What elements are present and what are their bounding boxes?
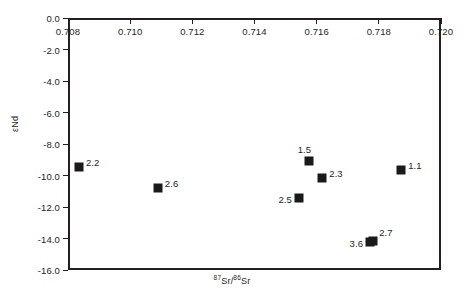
y-axis-tick-label: -12.0 <box>26 202 60 213</box>
x-axis-tick-label: 0.718 <box>367 26 391 37</box>
x-axis-tick-label: 0.720 <box>429 26 453 37</box>
x-axis-tick <box>130 18 131 24</box>
data-point-marker[interactable] <box>318 174 327 183</box>
y-axis-tick <box>63 238 68 239</box>
y-axis-tick <box>63 175 68 176</box>
data-point-label: 2.2 <box>86 156 100 167</box>
data-point-marker[interactable] <box>369 236 378 245</box>
scatter-chart-figure: 0.7080.7100.7120.7140.7160.7180.7200.0-2… <box>0 0 464 300</box>
data-point-label: 2.6 <box>165 178 179 189</box>
data-point-label: 3.6 <box>350 238 364 249</box>
data-point-marker[interactable] <box>397 165 406 174</box>
x-axis-tick <box>316 18 317 24</box>
y-axis-title: εNd <box>10 116 20 132</box>
x-axis-tick <box>68 18 69 24</box>
data-point-label: 2.3 <box>329 168 343 179</box>
data-point-marker[interactable] <box>153 184 162 193</box>
x-axis-tick <box>441 18 442 24</box>
y-axis-tick-label: -14.0 <box>26 233 60 244</box>
data-point-marker[interactable] <box>74 162 83 171</box>
x-axis-tick-label: 0.716 <box>305 26 329 37</box>
y-axis-tick <box>63 81 68 82</box>
x-axis-tick <box>192 18 193 24</box>
y-axis-tick <box>63 207 68 208</box>
data-point-label: 2.5 <box>278 194 292 205</box>
data-point-label: 1.1 <box>408 159 422 170</box>
x-axis-tick-label: 0.710 <box>118 26 142 37</box>
y-axis-tick <box>63 18 68 19</box>
y-axis-tick <box>63 49 68 50</box>
x-axis-tick <box>254 18 255 24</box>
y-axis-tick-label: 0.0 <box>26 13 60 24</box>
x-axis-title-sup-86: 86 <box>233 276 241 286</box>
x-axis-tick-label: 0.712 <box>180 26 204 37</box>
data-point-label: 1.5 <box>298 144 312 155</box>
x-axis-tick-label: 0.708 <box>56 26 80 37</box>
x-axis-tick-label: 0.714 <box>242 26 266 37</box>
data-point-marker[interactable] <box>294 194 303 203</box>
x-axis-tick <box>378 18 379 24</box>
x-axis-title: 87Sr/86Sr <box>0 276 464 286</box>
y-axis-tick <box>63 270 68 271</box>
y-axis-tick <box>63 144 68 145</box>
y-axis-tick-label: -16.0 <box>26 265 60 276</box>
y-axis-tick-label: -10.0 <box>26 170 60 181</box>
x-axis-title-post: Sr <box>241 276 250 286</box>
y-axis-tick-label: -8.0 <box>26 139 60 150</box>
x-axis-title-mid: Sr/ <box>221 276 233 286</box>
y-axis-tick-label: -4.0 <box>26 76 60 87</box>
data-point-marker[interactable] <box>305 157 314 166</box>
y-axis-tick-label: -6.0 <box>26 107 60 118</box>
y-axis-tick <box>63 112 68 113</box>
data-point-label: 2.7 <box>379 226 393 237</box>
y-axis-tick-label: -2.0 <box>26 44 60 55</box>
